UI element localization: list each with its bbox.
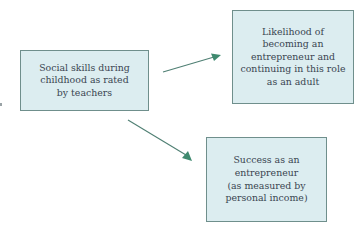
arrow-to-likelihood — [163, 54, 221, 73]
node-label: Success as an entrepreneur (as measured … — [225, 154, 307, 204]
node-label: Likelihood of becoming an entrepreneur a… — [240, 26, 345, 89]
arrowhead-icon — [211, 54, 221, 62]
arrow-to-success — [128, 120, 192, 161]
edge-artifact — [0, 103, 2, 106]
causal-diagram: Social skills during childhood as rated … — [0, 0, 361, 229]
node-entrepreneur-likelihood: Likelihood of becoming an entrepreneur a… — [232, 10, 354, 104]
node-entrepreneur-success: Success as an entrepreneur (as measured … — [206, 137, 327, 222]
node-label: Social skills during childhood as rated … — [39, 62, 130, 100]
arrowhead-icon — [182, 151, 192, 161]
node-social-skills: Social skills during childhood as rated … — [20, 50, 149, 111]
